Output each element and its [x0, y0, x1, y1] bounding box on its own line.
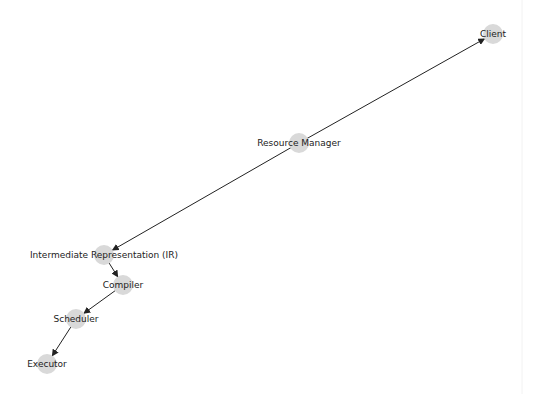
node-label: Scheduler — [53, 314, 98, 324]
node-resource-manager: Resource Manager — [257, 133, 341, 153]
diagram-canvas: ClientResource ManagerIntermediate Repre… — [0, 0, 544, 394]
node-ir: Intermediate Representation (IR) — [30, 245, 178, 265]
node-executor: Executor — [27, 354, 67, 374]
edge-resource-manager-to-client — [301, 38, 485, 142]
node-client: Client — [480, 24, 507, 44]
node-label: Resource Manager — [257, 138, 341, 148]
node-label: Intermediate Representation (IR) — [30, 250, 178, 260]
nodes-group: ClientResource ManagerIntermediate Repre… — [27, 24, 506, 374]
node-compiler: Compiler — [103, 275, 144, 295]
node-label: Compiler — [103, 280, 144, 290]
node-scheduler: Scheduler — [53, 309, 98, 329]
node-label: Executor — [27, 359, 67, 369]
edge-resource-manager-to-ir — [112, 144, 297, 251]
node-label: Client — [480, 29, 507, 39]
edges-group — [52, 38, 485, 356]
